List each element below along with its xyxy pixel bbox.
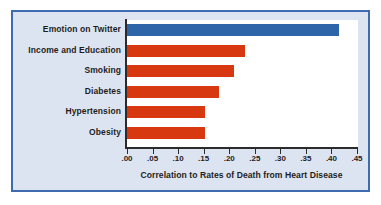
chart-figure: Emotion on TwitterIncome and EducationSm… [0,0,381,205]
bar-row: Diabetes [0,83,381,103]
bar-category-label: Hypertension [0,106,121,116]
x-axis-ticks: .00.05.10.15.20.25.30.35.40.45 [0,149,381,155]
x-axis-title: Correlation to Rates of Death from Heart… [125,170,358,180]
bar-category-label: Smoking [0,65,121,75]
bar [127,127,205,139]
bar [127,24,339,36]
bar-row: Obesity [0,124,381,144]
bar-category-label: Emotion on Twitter [0,24,121,34]
bar-category-label: Diabetes [0,86,121,96]
bar [127,65,234,77]
bar [127,106,205,118]
bar-row: Smoking [0,62,381,82]
bar [127,45,245,57]
x-tick-label: .45 [342,154,372,163]
bar-category-label: Obesity [0,127,121,137]
bar-row: Hypertension [0,103,381,123]
bar-category-label: Income and Education [0,45,121,55]
bar-row: Income and Education [0,42,381,62]
bar [127,86,219,98]
bar-row: Emotion on Twitter [0,21,381,41]
